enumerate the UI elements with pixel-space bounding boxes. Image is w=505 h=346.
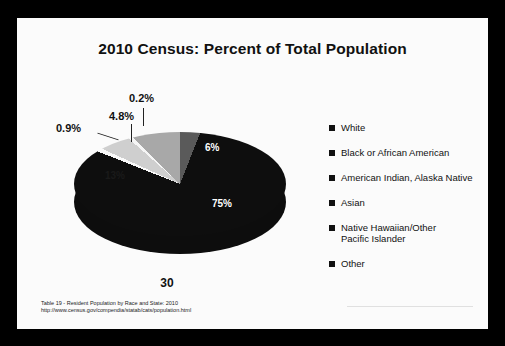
legend-item-american-indian-alaska-native: American Indian, Alaska Native — [329, 172, 481, 183]
decorative-rule — [347, 306, 473, 307]
legend-item-asian: Asian — [329, 197, 481, 208]
source-line-2: http://www.census.gov/compendia/statab/c… — [41, 307, 191, 314]
source-citation: Table 19 - Resident Population by Race a… — [41, 300, 191, 314]
page-title: 2010 Census: Percent of Total Population — [17, 40, 488, 58]
leader-line-native-hawaiian — [143, 108, 144, 126]
legend-label: Native Hawaiian/Other Pacific Islander — [341, 222, 451, 244]
legend-item-black-or-african-american: Black or African American — [329, 147, 481, 158]
callout-asian: 4.8% — [109, 110, 134, 122]
legend-item-native-hawaiian-other-pacific-islander: Native Hawaiian/Other Pacific Islander — [329, 222, 481, 244]
legend-label: Asian — [341, 197, 365, 208]
callout-american-indian: 0.9% — [56, 122, 81, 134]
callout-native-hawaiian: 0.2% — [129, 92, 154, 104]
leader-line-asian — [131, 124, 132, 142]
legend-label: Other — [341, 258, 365, 269]
legend-label: American Indian, Alaska Native — [341, 172, 472, 183]
pie-chart: 6% 75% 13% 0.2% 4.8% 0.9% — [59, 114, 309, 264]
slice-label-black: 13% — [105, 170, 125, 181]
leader-line-american-indian — [97, 133, 118, 141]
slice-label-white: 75% — [212, 198, 232, 209]
legend-label: White — [341, 122, 365, 133]
slide-page-number: 30 — [17, 276, 317, 290]
legend-swatch-icon — [329, 175, 335, 181]
legend-swatch-icon — [329, 200, 335, 206]
slide-canvas: 2010 Census: Percent of Total Population… — [17, 18, 488, 329]
chart-legend: White Black or African American American… — [329, 122, 481, 283]
slice-label-other: 6% — [205, 142, 219, 153]
pie-surface — [74, 132, 286, 236]
legend-swatch-icon — [329, 261, 335, 267]
legend-swatch-icon — [329, 225, 335, 231]
legend-swatch-icon — [329, 150, 335, 156]
legend-item-other: Other — [329, 258, 481, 269]
legend-item-white: White — [329, 122, 481, 133]
legend-swatch-icon — [329, 125, 335, 131]
legend-label: Black or African American — [341, 147, 449, 158]
source-line-1: Table 19 - Resident Population by Race a… — [41, 300, 191, 307]
